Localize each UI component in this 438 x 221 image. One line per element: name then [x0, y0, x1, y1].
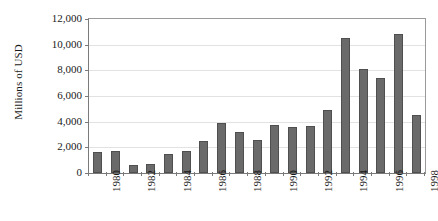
- y-tick-label: 4,000: [57, 116, 82, 126]
- y-tickmark: [85, 122, 89, 123]
- y-tickmark: [85, 96, 89, 97]
- x-tick-label: 1982: [132, 156, 143, 196]
- x-tick-label: 1986: [203, 156, 214, 196]
- x-tick-label: 1984: [168, 156, 179, 196]
- x-tick-label: 1998: [415, 156, 426, 196]
- plot-area: [88, 18, 426, 174]
- bar: [253, 140, 262, 173]
- bar: [323, 110, 332, 173]
- x-tick-label: 1990: [274, 156, 285, 196]
- y-tickmark: [85, 19, 89, 20]
- bar: [359, 69, 368, 173]
- y-tickmark: [85, 45, 89, 46]
- bar-chart: Millions of USD 02,0004,0006,0008,00010,…: [0, 0, 438, 221]
- y-tick-label: 0: [77, 167, 83, 177]
- y-tickmark: [85, 70, 89, 71]
- y-axis-tick-labels: 02,0004,0006,0008,00010,00012,000: [20, 0, 82, 221]
- x-tick-label: 1994: [344, 156, 355, 196]
- bar: [341, 38, 350, 173]
- y-tick-label: 6,000: [57, 90, 82, 100]
- y-tick-label: 2,000: [57, 141, 82, 151]
- x-tick-label: 1980: [97, 156, 108, 196]
- bar: [288, 127, 297, 173]
- y-tick-label: 12,000: [52, 13, 82, 23]
- bar: [217, 123, 226, 173]
- y-tickmark: [85, 147, 89, 148]
- x-tick-label: 1992: [309, 156, 320, 196]
- bar: [394, 34, 403, 173]
- y-tick-label: 10,000: [52, 39, 82, 49]
- bars-series: [89, 19, 425, 173]
- y-tick-label: 8,000: [57, 64, 82, 74]
- x-tick-label: 1988: [238, 156, 249, 196]
- x-axis-tick-labels: 1980198219841986198819901992199419961998: [88, 176, 426, 221]
- x-tick-label: 1996: [380, 156, 391, 196]
